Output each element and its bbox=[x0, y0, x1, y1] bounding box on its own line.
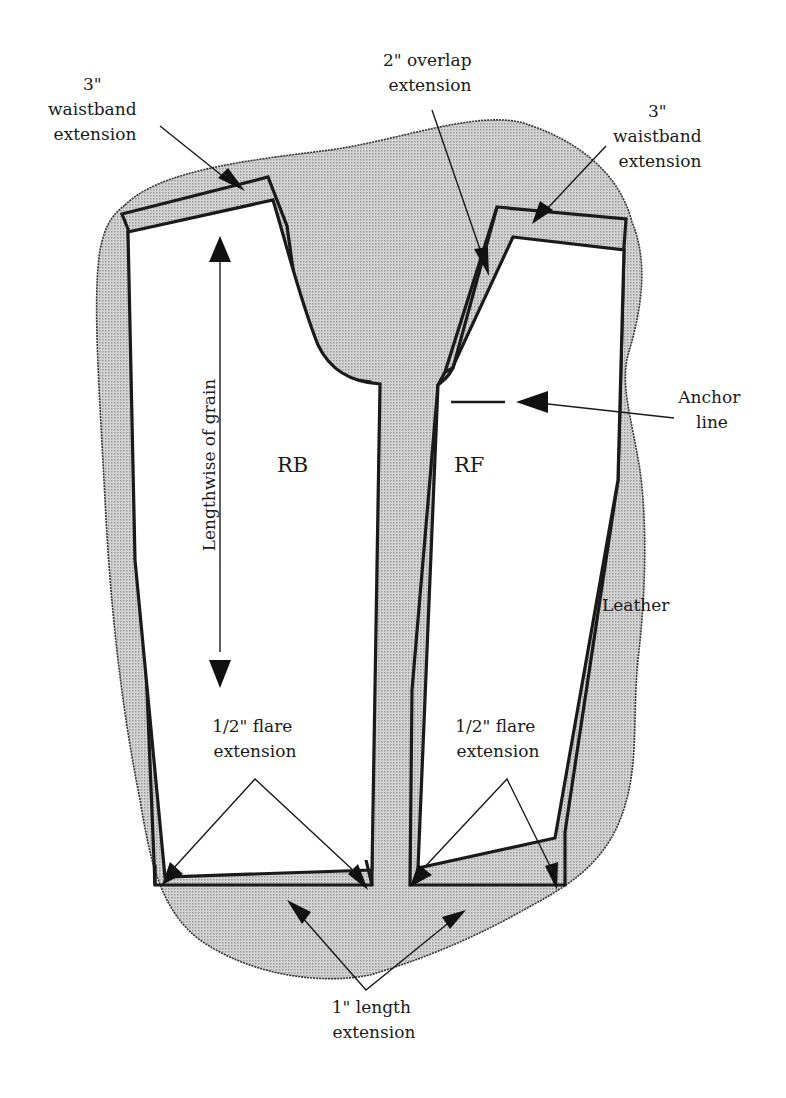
pattern-layout-diagram: 3" waistband extension 2" overlap extens… bbox=[0, 0, 786, 1098]
waistband-right-label: 3" waistband extension bbox=[613, 101, 707, 171]
length-label: 1" length extension bbox=[332, 997, 417, 1042]
grain-label: Lengthwise of grain bbox=[199, 379, 219, 552]
piece-label-rf: RF bbox=[454, 453, 484, 477]
piece-label-rb: RB bbox=[277, 453, 308, 477]
leather-label: Leather bbox=[602, 595, 670, 615]
anchor-label: Anchor line bbox=[677, 387, 745, 432]
overlap-label: 2" overlap extension bbox=[383, 50, 477, 95]
waistband-left-label: 3" waistband extension bbox=[48, 74, 142, 144]
